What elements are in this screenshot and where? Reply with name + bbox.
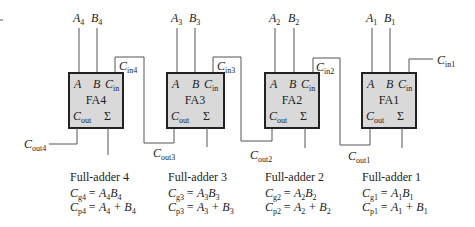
fa3-name: FA3 (185, 93, 205, 107)
fa4-input-b-label: B4 (91, 11, 102, 27)
full-adder-4: A4 B4 Cin4 A B Cin FA4 Cout Σ Cout4 Full… (24, 11, 174, 216)
fa3-propagate-eq: Cp3= A3 + B3 (168, 200, 234, 216)
fa1-input-b-label: B1 (384, 11, 395, 27)
fa4-propagate-eq: Cp4= A4 + B4 (70, 200, 136, 216)
fa4-port-b: B (93, 77, 101, 91)
fa3-caption: Full-adder 3 (168, 170, 227, 184)
fa1-cin-label: Cin1 (437, 53, 455, 69)
fa2-input-a-label: A2 (268, 11, 280, 27)
fa3-port-a: A (171, 77, 180, 91)
fa4-port-sum: Σ (104, 109, 111, 123)
fa1-name: FA1 (379, 93, 399, 107)
fa4-cout-wire (49, 128, 77, 144)
fa1-cout-label: Cout1 (348, 149, 370, 165)
fa4-cout-label: Cout4 (24, 137, 46, 153)
fa3-cout-label: Cout3 (153, 146, 175, 162)
fa2-port-a: A (269, 77, 278, 91)
fa3-port-b: B (192, 77, 200, 91)
fa4-input-a-label: A4 (72, 11, 84, 27)
fa2-port-b: B (289, 77, 297, 91)
fa3-input-a-label: A3 (170, 11, 182, 27)
fa1-port-a: A (366, 77, 375, 91)
ripple-carry-adder-diagram: A4 B4 Cin4 A B Cin FA4 Cout Σ Cout4 Full… (0, 0, 475, 227)
full-adder-3: A3 B3 Cin3 A B Cin FA3 Cout Σ Cout3 Full… (153, 11, 272, 216)
fa4-name: FA4 (86, 93, 106, 107)
fa1-caption: Full-adder 1 (362, 170, 421, 184)
fa2-input-b-label: B2 (288, 11, 299, 27)
fa1-port-b: B (386, 77, 394, 91)
fa4-caption: Full-adder 4 (70, 170, 129, 184)
fa3-port-sum: Σ (203, 109, 210, 123)
fa1-propagate-eq: Cp1= A1 + B1 (362, 200, 428, 216)
fa2-cout-label: Cout2 (250, 148, 272, 164)
fa2-caption: Full-adder 2 (265, 170, 324, 184)
fa2-name: FA2 (282, 93, 302, 107)
fa2-port-sum: Σ (300, 109, 307, 123)
fa1-port-sum: Σ (397, 109, 404, 123)
full-adder-2: A2 B2 Cin2 A B Cin FA2 Cout Σ Cout2 Full… (250, 11, 370, 216)
fa3-input-b-label: B3 (189, 11, 200, 27)
fa1-cin-wire (409, 59, 433, 73)
fa2-propagate-eq: Cp2= A2 + B2 (265, 200, 331, 216)
fa1-input-a-label: A1 (365, 11, 377, 27)
fa4-port-a: A (73, 77, 82, 91)
full-adder-1: A1 B1 Cin1 A B Cin FA1 Cout Σ Cout1 Full… (348, 11, 455, 216)
